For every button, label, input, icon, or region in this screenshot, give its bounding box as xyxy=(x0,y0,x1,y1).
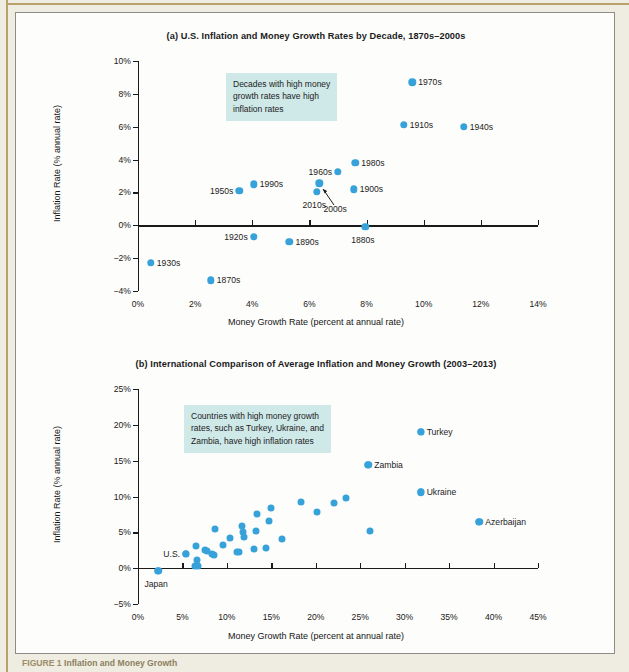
chart-a-y-tick-label: 10% xyxy=(114,56,131,66)
chart-b-x-tick-label: 45% xyxy=(529,612,546,622)
data-point-japan[interactable] xyxy=(155,567,162,574)
chart-b-y-tick xyxy=(133,568,138,569)
data-point-label: 1930s xyxy=(157,258,180,268)
data-point-ukraine[interactable] xyxy=(417,488,424,495)
data-point-label: U.S. xyxy=(163,549,180,559)
data-point-azerbaijan[interactable] xyxy=(476,518,483,525)
chart-b-x-tick xyxy=(271,563,272,568)
chart-b-x-tick xyxy=(182,563,183,568)
data-point-u-s[interactable] xyxy=(182,550,189,557)
chart-a-x-tick xyxy=(252,220,253,225)
data-point[interactable] xyxy=(297,498,304,505)
data-point-1920s[interactable] xyxy=(250,233,257,240)
data-point-label: 1940s xyxy=(470,122,493,132)
data-point-label: 1910s xyxy=(410,120,433,130)
chart-b-y-tick xyxy=(133,425,138,426)
chart-b-annotation-line: Zambia, have high inflation rates xyxy=(191,435,324,447)
data-point[interactable] xyxy=(226,535,233,542)
data-point-1890s[interactable] xyxy=(286,238,293,245)
chart-b-y-tick xyxy=(133,604,138,605)
chart-a-y-tick xyxy=(133,258,138,259)
data-point-label: 1950s xyxy=(210,186,233,196)
chart-a-x-tick-label: 4% xyxy=(246,299,258,309)
chart-a-x-tick xyxy=(538,220,539,225)
data-point[interactable] xyxy=(265,517,272,524)
chart-a-y-tick-label: 2% xyxy=(119,187,131,197)
data-point[interactable] xyxy=(211,551,218,558)
data-point[interactable] xyxy=(263,544,270,551)
chart-b-y-tick xyxy=(133,532,138,533)
chart-a-x-axis xyxy=(138,225,538,226)
chart-b-x-tick-label: 30% xyxy=(396,612,413,622)
data-point[interactable] xyxy=(212,526,219,533)
chart-b-y-tick-label: 15% xyxy=(114,456,131,466)
data-point[interactable] xyxy=(251,545,258,552)
data-point-1990s[interactable] xyxy=(250,181,257,188)
data-point[interactable] xyxy=(367,527,374,534)
data-point[interactable] xyxy=(236,549,243,556)
data-point[interactable] xyxy=(279,535,286,542)
data-point[interactable] xyxy=(330,500,337,507)
chart-a-y-tick xyxy=(133,127,138,128)
data-point-2010s[interactable] xyxy=(313,188,320,195)
chart-b-x-tick xyxy=(538,563,539,568)
data-point-1930s[interactable] xyxy=(147,259,154,266)
chart-b-x-tick xyxy=(405,563,406,568)
data-point-label: Turkey xyxy=(427,427,453,437)
page-top-rule xyxy=(6,3,629,5)
chart-b-x-tick-label: 25% xyxy=(352,612,369,622)
data-point-label: 1900s xyxy=(360,184,383,194)
chart-a-panel: (a) U.S. Inflation and Money Growth Rate… xyxy=(16,17,616,337)
data-point[interactable] xyxy=(313,508,320,515)
data-point-1870s[interactable] xyxy=(207,277,214,284)
chart-a-y-tick-label: −2% xyxy=(114,253,131,263)
chart-a-y-tick-label: 0% xyxy=(119,220,131,230)
data-point-1940s[interactable] xyxy=(460,123,467,130)
chart-b-y-tick xyxy=(133,461,138,462)
data-point-1910s[interactable] xyxy=(400,121,407,128)
data-point-1950s[interactable] xyxy=(236,187,243,194)
data-point-label: 1880s xyxy=(351,235,374,245)
data-point[interactable] xyxy=(220,541,227,548)
chart-b-x-tick-label: 10% xyxy=(218,612,235,622)
chart-b-y-tick-label: 5% xyxy=(119,527,131,537)
chart-a-y-tick xyxy=(133,291,138,292)
data-point-label: 1970s xyxy=(418,77,441,87)
data-point-1880s[interactable] xyxy=(361,223,368,230)
chart-a-y-tick-label: 6% xyxy=(119,122,131,132)
chart-b-y-axis xyxy=(138,389,139,604)
data-point[interactable] xyxy=(240,534,247,541)
chart-b-x-tick xyxy=(316,563,317,568)
chart-b-x-tick xyxy=(360,563,361,568)
data-point-1980s[interactable] xyxy=(351,159,358,166)
data-point[interactable] xyxy=(254,511,261,518)
chart-a-annotation-line: Decades with high money xyxy=(233,78,330,90)
chart-b-y-tick xyxy=(133,497,138,498)
chart-b-y-tick-label: −5% xyxy=(114,599,131,609)
data-point-1970s[interactable] xyxy=(409,79,416,86)
data-point[interactable] xyxy=(268,504,275,511)
data-point-1960s[interactable] xyxy=(334,168,341,175)
chart-a-y-tick xyxy=(133,61,138,62)
chart-b-y-tick-label: 25% xyxy=(114,384,131,394)
chart-a-annotation-line: growth rates have high xyxy=(233,90,330,102)
chart-a-plot-area: 10%8%6%4%2%0%−2%−4%0%2%4%6%8%10%12%14%De… xyxy=(138,61,538,291)
chart-b-annotation: Countries with high money growthrates, s… xyxy=(184,405,331,453)
chart-a-x-tick-label: 14% xyxy=(529,299,546,309)
data-point[interactable] xyxy=(194,562,201,569)
data-point[interactable] xyxy=(343,494,350,501)
page-background: (a) U.S. Inflation and Money Growth Rate… xyxy=(0,0,629,672)
chart-b-plot-area: 25%20%15%10%5%0%−5%0%5%10%15%20%25%30%35… xyxy=(138,389,538,604)
data-point[interactable] xyxy=(253,527,260,534)
figure-caption-number: FIGURE 1 xyxy=(22,658,62,668)
chart-b-x-tick xyxy=(494,563,495,568)
data-point-1900s[interactable] xyxy=(350,185,357,192)
data-point-zambia[interactable] xyxy=(365,461,372,468)
chart-a-x-tick-label: 2% xyxy=(189,299,201,309)
data-point[interactable] xyxy=(192,543,199,550)
data-point-turkey[interactable] xyxy=(417,428,424,435)
chart-a-y-tick xyxy=(133,94,138,95)
chart-a-x-tick xyxy=(309,220,310,225)
data-point-label: 1990s xyxy=(260,179,283,189)
chart-a-x-tick-label: 12% xyxy=(472,299,489,309)
